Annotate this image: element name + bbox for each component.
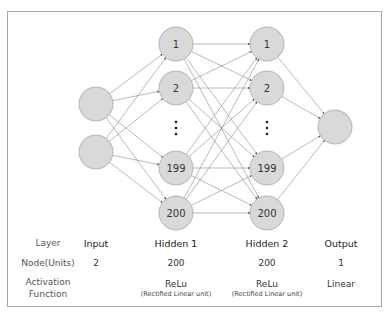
col-input-layer: Input <box>84 238 109 249</box>
node-label: 200 <box>166 208 185 219</box>
row-header-activation-2: Function <box>29 289 67 300</box>
node-input <box>79 135 113 169</box>
node-label: 199 <box>166 163 185 174</box>
network-nodes: 1219920012199200 <box>79 27 352 230</box>
edge <box>109 99 162 142</box>
edge <box>278 140 325 199</box>
row-header-nodes: Node(Units) <box>21 258 75 269</box>
ellipsis-dot <box>266 133 269 136</box>
col-hidden1-nodes: 200 <box>167 258 184 269</box>
node-label: 1 <box>173 39 179 50</box>
col-hidden2-activation-detail: (Rectified Linear unit) <box>232 290 302 298</box>
ellipsis-dot <box>175 127 178 130</box>
col-hidden2-nodes: 200 <box>258 258 275 269</box>
edge <box>109 115 162 158</box>
edge <box>282 96 321 118</box>
node-output <box>318 110 352 144</box>
node-label: 199 <box>257 163 276 174</box>
row-header-layer: Layer <box>35 238 60 249</box>
edge <box>278 57 324 114</box>
edge <box>110 54 163 94</box>
node-input <box>79 87 113 121</box>
edge <box>113 91 160 100</box>
node-label: 2 <box>173 83 179 94</box>
node-label: 200 <box>257 208 276 219</box>
col-hidden2-activation: ReLu <box>256 279 278 290</box>
edge <box>113 155 160 164</box>
col-input-nodes: 2 <box>93 258 99 269</box>
col-hidden1-layer: Hidden 1 <box>155 238 198 249</box>
node-label: 2 <box>264 83 270 94</box>
col-hidden1-activation-detail: (Rectified Linear unit) <box>141 290 211 298</box>
col-output-layer: Output <box>325 238 358 249</box>
ellipsis-dot <box>175 133 178 136</box>
col-output-activation: Linear <box>327 279 355 290</box>
connection-edges <box>106 44 324 213</box>
edge <box>110 162 163 202</box>
edge <box>282 136 321 159</box>
ellipsis-dot <box>266 121 269 124</box>
ellipsis-dot <box>175 121 178 124</box>
ellipsis-dot <box>266 127 269 130</box>
col-hidden2-layer: Hidden 2 <box>246 238 289 249</box>
node-label: 1 <box>264 39 270 50</box>
edge <box>106 58 166 139</box>
edge <box>106 118 166 200</box>
row-header-activation-1: Activation <box>25 277 70 288</box>
col-hidden1-activation: ReLu <box>165 279 187 290</box>
col-output-nodes: 1 <box>338 258 344 269</box>
